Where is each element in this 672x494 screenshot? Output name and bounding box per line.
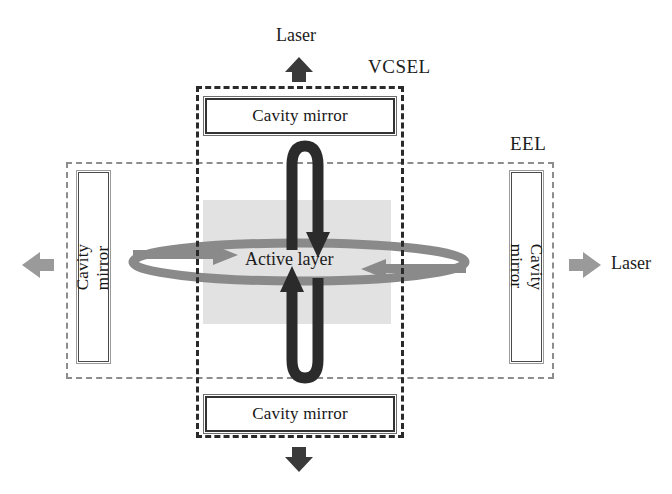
emission-arrow-right-icon <box>569 252 601 278</box>
figure-canvas: Cavity mirror Cavity mirror Cavity mirro… <box>0 0 672 494</box>
emission-arrow-up-icon <box>285 57 313 82</box>
vcsel-cavity-loop-upper <box>292 146 330 258</box>
vcsel-cavity-loop-lower <box>280 266 318 378</box>
active-layer-label: Active layer <box>245 250 333 268</box>
vcsel-arrowhead-up <box>280 266 304 292</box>
arrow-layer <box>0 0 672 494</box>
emission-arrow-left-icon <box>22 252 54 278</box>
emission-arrow-down-icon <box>285 447 313 472</box>
